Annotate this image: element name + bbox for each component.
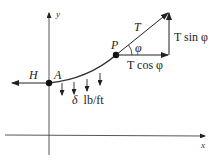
load-symbol: δ xyxy=(72,93,78,107)
angle-arc xyxy=(129,45,133,55)
x-axis xyxy=(5,135,205,136)
x-axis-label: x xyxy=(200,140,205,150)
tension-arrow xyxy=(116,13,168,55)
distributed-load-label: δ lb/ft xyxy=(72,93,104,107)
tension-vertical-component-label: T sin φ xyxy=(174,30,208,44)
tension-label: T xyxy=(134,20,142,34)
load-units: lb/ft xyxy=(84,93,105,107)
point-a-label: A xyxy=(53,68,62,82)
point-p-label: P xyxy=(110,38,119,52)
angle-label: φ xyxy=(135,41,142,55)
y-axis-label: y xyxy=(55,9,60,19)
h-force-label: H xyxy=(28,68,39,82)
point-a xyxy=(46,80,52,86)
cable-free-body-diagram: y x H A δ lb/ft P T φ T cos φ T sin φ xyxy=(0,0,213,162)
tension-horizontal-component-label: T cos φ xyxy=(127,58,163,72)
